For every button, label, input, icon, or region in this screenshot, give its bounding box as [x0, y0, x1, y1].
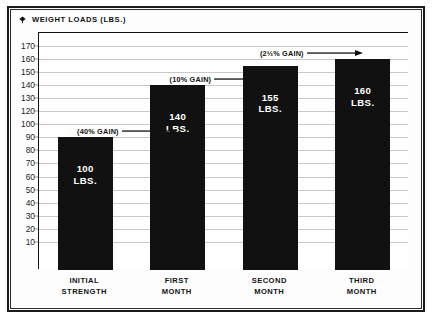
diamond-bullet-icon — [18, 16, 27, 24]
page-title: WEIGHT LOADS (LBS.) — [32, 15, 126, 24]
gain-annotation-label: (10% GAIN) — [170, 75, 212, 84]
gridline — [39, 46, 408, 47]
category-label-line: INITIAL — [38, 276, 131, 287]
y-axis-label: 140 — [21, 80, 35, 90]
y-axis-label: 70 — [26, 158, 35, 168]
bar[interactable]: 155LBS. — [243, 66, 298, 270]
category-label: SECONDMONTH — [223, 276, 316, 297]
bar-value-label: 100 — [74, 163, 97, 175]
category-label-line: THIRD — [316, 276, 409, 287]
bar-value-label: 155 — [259, 92, 282, 104]
y-axis-label: 50 — [26, 185, 35, 195]
y-axis-label: 150 — [21, 67, 35, 77]
arrow-right-icon — [214, 76, 270, 83]
category-label-line: STRENGTH — [38, 287, 131, 298]
category-label: INITIALSTRENGTH — [38, 276, 131, 297]
y-axis-label: 80 — [26, 145, 35, 155]
y-axis-label: 90 — [26, 132, 35, 142]
y-axis-label: 20 — [26, 224, 35, 234]
bar-unit-label: LBS. — [259, 103, 282, 115]
y-axis-label: 30 — [26, 211, 35, 221]
gain-annotation: (40% GAIN) — [77, 127, 178, 136]
category-label: FIRSTMONTH — [131, 276, 224, 297]
bar-unit-label: LBS. — [74, 175, 97, 187]
category-label-line: FIRST — [131, 276, 224, 287]
y-axis-label: 170 — [21, 41, 35, 51]
bar-value-label: 140 — [166, 111, 189, 123]
y-axis-label: 40 — [26, 198, 35, 208]
arrow-right-icon — [122, 128, 178, 135]
chart-title-row: WEIGHT LOADS (LBS.) — [18, 15, 126, 24]
y-axis-label: 10 — [26, 237, 35, 247]
category-label: THIRDMONTH — [316, 276, 409, 297]
bar-value-label: 160 — [351, 85, 374, 97]
chart-page: WEIGHT LOADS (LBS.) 17016015014013012010… — [0, 0, 433, 324]
y-axis-label: 100 — [21, 119, 35, 129]
category-label-line: MONTH — [316, 287, 409, 298]
category-label-line: SECOND — [223, 276, 316, 287]
bar[interactable]: 140LBS. — [150, 85, 205, 270]
gain-annotation-label: (40% GAIN) — [77, 127, 119, 136]
y-axis-label: 130 — [21, 93, 35, 103]
category-label-line: MONTH — [223, 287, 316, 298]
category-label-line: MONTH — [131, 287, 224, 298]
y-axis-label: 160 — [21, 54, 35, 64]
y-axis-label: 60 — [26, 172, 35, 182]
bar-unit-label: LBS. — [351, 97, 374, 109]
arrow-right-icon — [307, 50, 363, 57]
bar[interactable]: 100LBS. — [58, 137, 113, 270]
plot-area: 1701601501401301201009080706050403020101… — [38, 32, 408, 269]
bar[interactable]: 160LBS. — [335, 59, 390, 270]
gain-annotation-label: (2⅓% GAIN) — [260, 49, 304, 58]
y-axis-label: 120 — [21, 106, 35, 116]
gain-annotation: (10% GAIN) — [170, 75, 271, 84]
gain-annotation: (2⅓% GAIN) — [260, 49, 363, 58]
